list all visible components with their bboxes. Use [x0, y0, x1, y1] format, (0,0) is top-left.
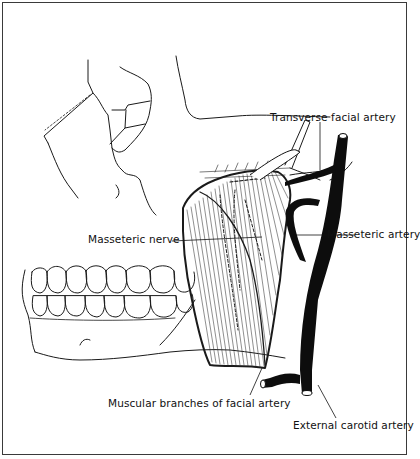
- label-masseteric-artery: Masseteric artery: [327, 228, 420, 240]
- masseter-muscle: [183, 170, 291, 368]
- label-masseteric-nerve: Masseteric nerve: [88, 233, 180, 245]
- label-external-carotid-artery: External carotid artery: [293, 419, 414, 431]
- lower-teeth: [32, 294, 193, 318]
- skull-outline: [44, 56, 330, 215]
- label-transverse-facial-artery: Transverse facial artery: [270, 111, 396, 123]
- upper-teeth: [31, 266, 194, 293]
- label-muscular-branches-of-facial-artery: Muscular branches of facial artery: [108, 397, 291, 409]
